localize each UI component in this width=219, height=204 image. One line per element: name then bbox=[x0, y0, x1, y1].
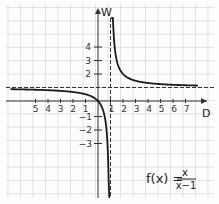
x-tick-label: 4 bbox=[146, 104, 152, 114]
y-tick-label: −3 bbox=[79, 139, 92, 149]
formula: f(x) = x x−1 bbox=[146, 167, 196, 191]
y-tick-label: −2 bbox=[79, 125, 92, 135]
x-tick-label: 4 bbox=[45, 104, 51, 114]
axes bbox=[6, 8, 207, 198]
x-axis-arrow-icon bbox=[201, 98, 207, 104]
x-tick-label: 5 bbox=[33, 104, 39, 114]
formula-numerator: x bbox=[182, 167, 188, 178]
y-tick-label: 2 bbox=[85, 69, 91, 79]
x-tick-label: 5 bbox=[159, 104, 165, 114]
x-tick-label: 6 bbox=[171, 104, 177, 114]
x-tick-label: 3 bbox=[134, 104, 140, 114]
x-tick-label: 2 bbox=[70, 104, 76, 114]
x-tick-label: 7 bbox=[184, 104, 190, 114]
x-tick-label: 3 bbox=[58, 104, 64, 114]
curve-right-branch bbox=[111, 18, 198, 86]
formula-denominator: x−1 bbox=[176, 180, 197, 191]
x-axis-label: D bbox=[202, 107, 210, 120]
x-tick-label: 2 bbox=[121, 104, 127, 114]
function-graph: 543211234567234−1−2−3 D W f(x) = x x−1 bbox=[0, 0, 219, 204]
y-tick-label: 3 bbox=[85, 56, 91, 66]
plot-canvas: 543211234567234−1−2−3 D W f(x) = x x−1 bbox=[0, 0, 219, 204]
y-tick-label: 4 bbox=[85, 42, 91, 52]
y-tick-label: −1 bbox=[79, 112, 92, 122]
x-tick-label: 1 bbox=[109, 104, 115, 114]
y-axis-label: W bbox=[101, 6, 112, 19]
